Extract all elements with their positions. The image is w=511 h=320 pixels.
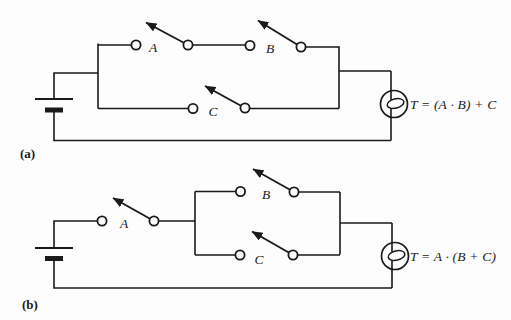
figure-switching-circuits: A B C T = (A · B) + C (a) bbox=[0, 0, 511, 320]
switch-contact bbox=[236, 187, 245, 196]
switch-pivot bbox=[288, 250, 297, 259]
circuit-b: A B C T = A · (B + C) (b) bbox=[22, 169, 496, 312]
switch-pivot bbox=[149, 216, 158, 225]
wire bbox=[54, 44, 391, 141]
switch-b: B bbox=[245, 21, 305, 57]
switch-c-label: C bbox=[208, 104, 218, 119]
switch-b: B bbox=[236, 169, 299, 202]
switch-b-label: B bbox=[266, 41, 274, 56]
switch-c: C bbox=[188, 86, 249, 119]
switch-a: A bbox=[131, 23, 192, 56]
circuit-a: A B C T = (A · B) + C (a) bbox=[20, 21, 497, 162]
switch-pivot bbox=[296, 42, 305, 51]
switch-contact bbox=[131, 40, 140, 49]
switch-c: C bbox=[235, 232, 297, 267]
switch-contact bbox=[245, 41, 254, 50]
switch-pivot bbox=[240, 103, 249, 112]
lamp-filament bbox=[387, 249, 406, 262]
circuit-diagram: A B C T = (A · B) + C (a) bbox=[0, 0, 511, 320]
switch-contact bbox=[235, 250, 244, 259]
switch-pivot bbox=[183, 40, 192, 49]
switch-pivot bbox=[289, 187, 298, 196]
switch-lever-icon bbox=[253, 169, 294, 192]
switch-a: A bbox=[97, 198, 158, 231]
wire bbox=[54, 192, 392, 289]
switch-b-label: B bbox=[262, 187, 270, 202]
equation-b: T = A · (B + C) bbox=[410, 249, 496, 264]
switch-a-label: A bbox=[148, 40, 158, 55]
caption-a: (a) bbox=[20, 146, 35, 161]
switch-contact bbox=[97, 216, 106, 225]
battery-icon bbox=[35, 99, 73, 110]
lamp-icon bbox=[381, 91, 408, 118]
switch-a-label: A bbox=[119, 216, 129, 231]
battery-icon bbox=[35, 248, 73, 259]
lamp-icon bbox=[382, 243, 409, 270]
switch-contact bbox=[188, 104, 197, 113]
switch-c-label: C bbox=[254, 252, 264, 267]
equation-a: T = (A · B) + C bbox=[410, 97, 497, 112]
lamp-filament bbox=[386, 97, 405, 110]
switch-lever-icon bbox=[258, 21, 301, 48]
caption-b: (b) bbox=[22, 297, 38, 312]
